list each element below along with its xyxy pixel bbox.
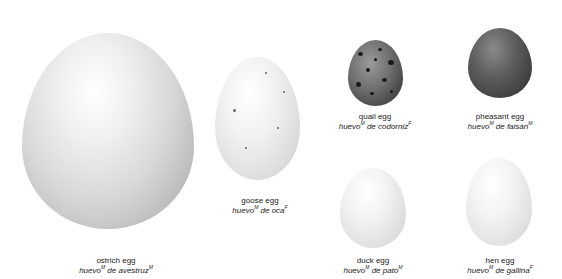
quail-egg-image (348, 40, 403, 106)
goose-egg-label: goose egg huevoM de ocaF (210, 196, 310, 216)
hen-egg-english: hen egg (450, 256, 550, 266)
duck-egg-label: duck egg huevoM de patoM (328, 256, 418, 276)
pheasant-egg-spanish: huevoM de faisánM (450, 122, 550, 132)
pheasant-egg-label: pheasant egg huevoM de faisánM (450, 112, 550, 132)
hen-egg-image (466, 158, 532, 246)
hen-egg-spanish: huevoM de gallinaF (450, 266, 550, 276)
ostrich-egg-image (22, 33, 194, 229)
goose-egg-english: goose egg (210, 196, 310, 206)
ostrich-egg-label: ostrich egg huevoM de avestruzM (40, 256, 192, 276)
duck-egg-english: duck egg (328, 256, 418, 266)
duck-egg-spanish: huevoM de patoM (328, 266, 418, 276)
goose-egg-image (215, 57, 300, 180)
quail-egg-spanish: huevoM de codornizF (330, 122, 420, 132)
pheasant-egg-image (468, 28, 532, 98)
goose-egg-spanish: huevoM de ocaF (210, 206, 310, 216)
quail-egg-english: quail egg (330, 112, 420, 122)
ostrich-egg-english: ostrich egg (40, 256, 192, 266)
pheasant-egg-english: pheasant egg (450, 112, 550, 122)
hen-egg-label: hen egg huevoM de gallinaF (450, 256, 550, 276)
duck-egg-image (340, 168, 406, 248)
quail-egg-label: quail egg huevoM de codornizF (330, 112, 420, 132)
ostrich-egg-spanish: huevoM de avestruzM (40, 266, 192, 276)
